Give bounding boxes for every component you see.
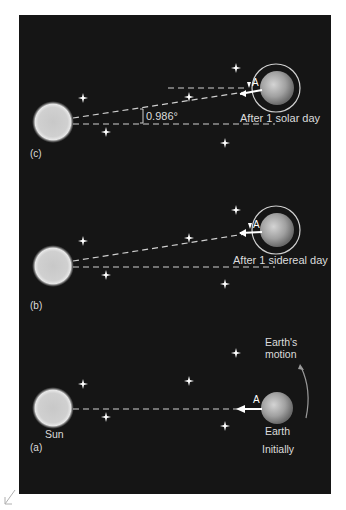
motion-label-line1: Earth's (265, 336, 297, 348)
caption-solar-day: After 1 solar day (240, 112, 321, 124)
star-icon (220, 421, 230, 431)
sun-icon (32, 387, 74, 429)
earth-label: Earth (265, 425, 290, 437)
sun-earth-line (73, 234, 245, 261)
angle-bracket (140, 109, 143, 123)
caption-sidereal-day: After 1 sidereal day (233, 254, 328, 266)
earth-icon (260, 213, 294, 247)
star-icon (231, 348, 241, 358)
panel-label-c: (c) (30, 148, 42, 159)
point-a-label: A (252, 77, 259, 88)
panel-label-b: (b) (30, 300, 42, 311)
caption-initially: Initially (262, 443, 295, 455)
arrow-down-icon (247, 82, 251, 88)
sun-label: Sun (45, 428, 64, 440)
earth-motion-arc (301, 367, 308, 418)
star-icon (184, 233, 194, 243)
motion-label-line2: motion (265, 348, 297, 360)
star-icon (78, 379, 88, 389)
star-icon (231, 63, 241, 73)
star-icon (78, 93, 88, 103)
point-a-label: A (253, 219, 260, 230)
star-icon (101, 412, 111, 422)
star-icon (101, 127, 111, 137)
arrow-down-icon (248, 223, 252, 229)
diagram-panel: 0.986° A After 1 solar day (c) A After 1… (19, 15, 331, 494)
star-icon (101, 270, 111, 280)
panel-b: A After 1 sidereal day (b) (30, 205, 328, 311)
point-a-label: A (253, 394, 260, 405)
star-icon (78, 236, 88, 246)
motion-arrow-icon (298, 364, 304, 370)
panel-c: 0.986° A After 1 solar day (c) (30, 63, 321, 159)
earth-icon (261, 392, 293, 424)
sun-icon (32, 101, 74, 143)
star-icon (184, 376, 194, 386)
corner-arrow-icon (2, 488, 18, 508)
panel-a: A Earth's motion Sun Earth Initially (a) (30, 336, 308, 455)
earth-icon (260, 71, 294, 105)
star-icon (231, 205, 241, 215)
star-icon (220, 279, 230, 289)
star-icon (220, 138, 230, 148)
panel-label-a: (a) (30, 442, 42, 453)
sun-icon (32, 245, 74, 287)
angle-label: 0.986° (146, 110, 178, 122)
